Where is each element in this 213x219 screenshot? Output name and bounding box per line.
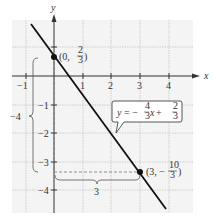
- point-3-neg10-3: [137, 169, 143, 175]
- point-y-intercept: [51, 54, 57, 60]
- rise-label: −4: [10, 111, 21, 122]
- svg-text:x: x: [149, 107, 155, 118]
- run-label: 3: [94, 186, 99, 197]
- x-axis-label: x: [203, 70, 209, 81]
- svg-text:(0,: (0,: [59, 51, 70, 63]
- graph: x y −1 1 2 3 4 −1 −2 −3 −4 −4 3 (0, 2 3 …: [0, 0, 213, 219]
- svg-text:+: +: [156, 107, 162, 118]
- x-tick-label: −1: [17, 80, 28, 91]
- y-axis-arrow-icon: [52, 14, 57, 22]
- svg-text:3: 3: [173, 110, 178, 121]
- svg-text:): ): [84, 51, 87, 63]
- y-tick-label: −1: [38, 100, 49, 111]
- x-tick-label: 3: [137, 80, 142, 91]
- y-tick-label: −4: [38, 185, 49, 196]
- x-tick-label: 2: [108, 80, 113, 91]
- svg-text:(3, −: (3, −: [146, 166, 165, 178]
- y-tick-label: −3: [38, 157, 49, 168]
- svg-text:= −: = −: [124, 107, 138, 118]
- svg-text:3: 3: [78, 54, 83, 65]
- x-tick-label: 1: [80, 80, 85, 91]
- y-axis-label: y: [50, 2, 56, 13]
- x-axis-arrow-icon: [192, 74, 200, 79]
- svg-text:3: 3: [170, 169, 175, 180]
- y-tick-label: −2: [38, 128, 49, 139]
- svg-text:): ): [178, 166, 181, 178]
- svg-text:y: y: [116, 107, 122, 118]
- x-tick-label: 4: [166, 80, 171, 91]
